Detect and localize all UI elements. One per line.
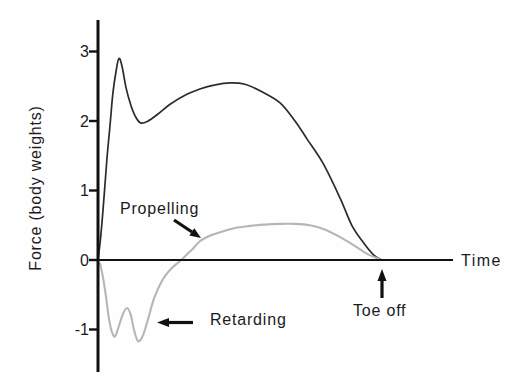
- y-tick-label: 3: [80, 43, 89, 60]
- toe-off-arrow: [378, 269, 387, 298]
- retarding-arrow: [157, 318, 193, 327]
- y-tick-label: 0: [80, 252, 89, 269]
- toe-off-label: Toe off: [353, 302, 406, 319]
- propelling-arrow: [174, 220, 201, 238]
- y-axis-title: Force (body weights): [27, 105, 44, 270]
- x-axis-title: Time: [461, 252, 502, 269]
- y-tick-label: -1: [75, 321, 89, 338]
- force-time-chart: 3210-1 Force (body weights) Time Propell…: [0, 0, 524, 388]
- propelling-label: Propelling: [120, 200, 199, 217]
- total-force-curve: [98, 58, 382, 260]
- retarding-label: Retarding: [210, 311, 287, 328]
- chart-svg: 3210-1 Force (body weights) Time Propell…: [0, 0, 524, 388]
- y-tick-label: 2: [80, 113, 89, 130]
- y-axis-ticks: 3210-1: [75, 43, 98, 338]
- y-tick-label: 1: [80, 182, 89, 199]
